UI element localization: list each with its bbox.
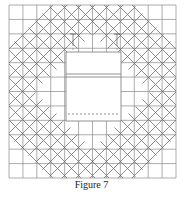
diagonal-line [101, 142, 136, 177]
diagonal-line [36, 128, 71, 163]
diagonal-line [108, 14, 143, 49]
diagonal-line [150, 56, 184, 91]
diagonal-line [15, 107, 50, 142]
diagonal-line [43, 14, 78, 49]
diagonal-line [15, 42, 50, 77]
diagonal-line [8, 100, 43, 135]
diagonal-line [115, 128, 150, 163]
diagonal-line [1, 93, 36, 128]
diagonal-line [115, 21, 150, 56]
diagonal-line [143, 49, 178, 84]
diagonal-line [143, 100, 178, 135]
diagonal-line [50, 142, 85, 177]
figure-diagram [0, 0, 183, 180]
diagonal-line [101, 7, 136, 42]
diagonal-line [150, 93, 184, 128]
diagonal-line [108, 135, 143, 170]
diagonal-line [29, 28, 64, 63]
diagonal-line [129, 114, 164, 149]
diagonal-line [22, 35, 57, 70]
diagonal-line [122, 121, 157, 156]
diagonal-line [136, 42, 171, 77]
diagonal-line [1, 56, 36, 91]
diagonal-line [122, 28, 157, 63]
diagonal-line [43, 135, 78, 170]
diagonal-line [50, 7, 85, 42]
center-panel-background [66, 52, 121, 121]
diagonal-line [22, 114, 57, 149]
diagonal-line [136, 107, 171, 142]
center-panel [66, 52, 121, 121]
diagonal-line [8, 49, 43, 84]
figure-caption: Figure 7 [0, 179, 183, 191]
diagonal-line [36, 21, 71, 56]
diagonal-line [29, 121, 64, 156]
diagonal-line [129, 35, 164, 70]
